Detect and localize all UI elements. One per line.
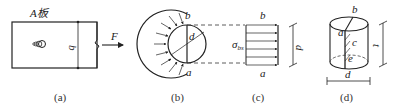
- label-d: d: [189, 30, 195, 42]
- panel-b: b a d (b): [137, 9, 245, 104]
- label-d: d: [345, 68, 351, 80]
- section-line-top: [345, 17, 353, 31]
- bearing-stress-figure: A板 b F (a) b a d (b): [0, 0, 397, 111]
- plate-outline: [12, 22, 97, 68]
- panel-a: A板 b F (a): [12, 7, 123, 104]
- caption-c: (c): [252, 91, 265, 104]
- label-a: a: [186, 66, 192, 78]
- label-a: a: [260, 67, 266, 79]
- force-label: F: [110, 30, 118, 42]
- label-t: t: [371, 44, 383, 48]
- label-b: b: [185, 9, 191, 21]
- label-b: b: [260, 9, 266, 21]
- width-label: b: [67, 45, 79, 51]
- label-a: a: [338, 26, 344, 38]
- caption-d: (d): [340, 91, 353, 104]
- label-c: c: [352, 36, 357, 48]
- panel-c: b a σbs d (c): [232, 9, 306, 104]
- label-b: b: [352, 3, 358, 15]
- label-d: d: [294, 45, 306, 51]
- caption-b: (b): [171, 91, 184, 104]
- panel-d: b a c e t d (d): [327, 3, 387, 104]
- stress-label: σbs: [232, 38, 244, 52]
- plate-label: A板: [29, 7, 50, 19]
- uniform-stress-arrows: [246, 25, 277, 65]
- break-line: [95, 22, 99, 68]
- caption-a: (a): [54, 91, 67, 104]
- label-e: e: [348, 52, 353, 64]
